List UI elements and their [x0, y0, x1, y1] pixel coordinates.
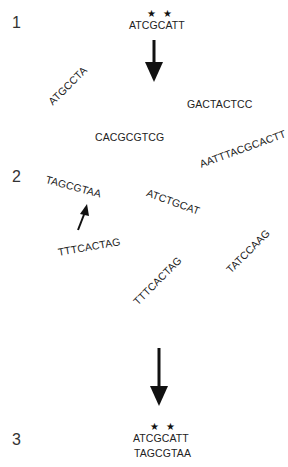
query-sequence: ATCGCATT	[133, 432, 189, 444]
fragment: ATGCCTA	[46, 64, 89, 107]
fragment: TTTCACTAG	[57, 235, 121, 258]
fragment-match: TAGCGTAA	[44, 173, 102, 199]
fragment: AATTTACGCACTT	[198, 127, 287, 169]
step-label-3: 3	[12, 431, 21, 449]
mark-star-icon: ★	[163, 8, 172, 19]
fragment: TTTCACTAG	[131, 254, 184, 307]
down-arrow-icon	[149, 348, 173, 408]
step-label-2: 2	[12, 168, 21, 186]
fragment: TATCCAAG	[224, 227, 272, 275]
mark-star-icon: ★	[166, 421, 175, 432]
fragment: GACTACTCC	[187, 98, 252, 110]
mark-star-icon: ★	[147, 8, 156, 19]
down-arrow-icon	[144, 40, 168, 84]
mark-star-icon: ★	[150, 421, 159, 432]
step-label-1: 1	[12, 14, 21, 32]
fragment: CACGCGTCG	[95, 131, 164, 143]
pointer-arrow-icon	[74, 204, 94, 234]
query-sequence: ATCGCATT	[129, 19, 185, 31]
complement-sequence: TAGCGTAA	[134, 447, 191, 459]
fragment: ATCTGCAT	[145, 186, 202, 216]
